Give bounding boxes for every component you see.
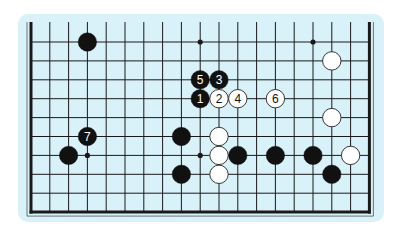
stone-disc [78, 33, 96, 51]
white-stone [323, 108, 341, 126]
white-stone [210, 165, 228, 183]
go-diagram: 5312467 [0, 0, 395, 231]
stone-disc [266, 146, 284, 164]
stone-disc [172, 127, 190, 145]
stone-disc [341, 146, 359, 164]
move-number-label: 5 [197, 73, 204, 87]
stone-disc [304, 146, 322, 164]
black-stone [266, 146, 284, 164]
go-board: 5312467 [0, 0, 395, 231]
star-point [85, 153, 90, 158]
move-number-label: 4 [234, 92, 241, 106]
move-number-label: 3 [216, 73, 223, 87]
move-number-label: 1 [197, 92, 204, 106]
white-stone [210, 146, 228, 164]
stone-disc [210, 165, 228, 183]
black-stone [304, 146, 322, 164]
black-stone: 1 [191, 90, 209, 108]
stone-disc [323, 108, 341, 126]
move-number-label: 2 [216, 92, 223, 106]
black-stone [78, 33, 96, 51]
black-stone [172, 127, 190, 145]
white-stone: 6 [266, 90, 284, 108]
black-stone [323, 165, 341, 183]
move-number-label: 7 [84, 130, 91, 144]
star-point [198, 39, 203, 44]
black-stone [229, 146, 247, 164]
star-point [310, 39, 315, 44]
black-stone: 7 [78, 127, 96, 145]
move-number-label: 6 [272, 92, 279, 106]
black-stone [172, 165, 190, 183]
black-stone: 5 [191, 71, 209, 89]
star-point [198, 153, 203, 158]
white-stone: 2 [210, 90, 228, 108]
stone-disc [210, 127, 228, 145]
stone-disc [210, 146, 228, 164]
white-stone: 4 [229, 90, 247, 108]
stone-disc [323, 52, 341, 70]
white-stone [341, 146, 359, 164]
stone-disc [323, 165, 341, 183]
stone-disc [172, 165, 190, 183]
white-stone [210, 127, 228, 145]
white-stone [323, 52, 341, 70]
stone-disc [229, 146, 247, 164]
black-stone: 3 [210, 71, 228, 89]
stone-disc [59, 146, 77, 164]
black-stone [59, 146, 77, 164]
